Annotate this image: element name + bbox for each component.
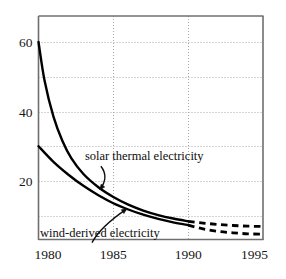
chart-container: solar thermal electricitywind-derived el… (0, 0, 286, 279)
y-tick-label: 60 (19, 35, 33, 50)
series-annotation-label-1: wind-derived electricity (40, 226, 160, 240)
series-annotation-label-0: solar thermal electricity (85, 149, 204, 163)
x-tick-label: 1995 (241, 247, 268, 262)
x-tick-label: 1980 (35, 247, 62, 262)
y-tick-label: 40 (19, 105, 33, 120)
y-tick-label: 20 (19, 174, 33, 189)
line-chart: solar thermal electricitywind-derived el… (0, 0, 286, 279)
x-tick-label: 1985 (100, 247, 127, 262)
x-tick-label: 1990 (175, 247, 202, 262)
